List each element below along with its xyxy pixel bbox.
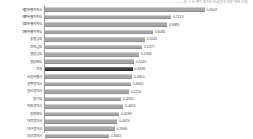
bar-value-label: 0.5308: [141, 52, 152, 56]
bar-row: 전북특별자치도0.6082: [0, 28, 252, 35]
bar-track: 0.4910: [44, 73, 253, 80]
bar-track: 0.5308: [44, 51, 253, 58]
bar-track: 0.6082: [44, 28, 253, 35]
bar-value-label: 0.4720: [130, 90, 141, 94]
category-label: 인천광역시: [0, 104, 44, 108]
bar[interactable]: [45, 126, 115, 131]
bar-row: 대구광역시0.3940: [0, 125, 252, 132]
bar-row: 충청북도0.4183: [0, 110, 252, 117]
bar-value-label: 0.9007: [207, 8, 218, 12]
bar-row: 제주특별자치도0.7113: [0, 13, 252, 20]
bar-row: 경기도0.4290: [0, 95, 252, 102]
bar-track: 0.4290: [44, 95, 253, 102]
category-label: 경기도: [0, 97, 44, 101]
chart-container: ○○○○년 시·도별 지표지수 비교(전국 평균 대비 수준) 세종특별자치시0…: [0, 0, 252, 139]
bar-row: 경상북도0.5022: [0, 58, 252, 65]
bar-value-label: 0.3601: [111, 134, 122, 138]
category-label: 부산광역시: [0, 134, 44, 138]
category-label: 경상남도: [0, 52, 44, 56]
bar-row: 경상남도0.5308: [0, 51, 252, 58]
bar-track: 0.6895: [44, 21, 253, 28]
bar[interactable]: [45, 104, 123, 109]
bar[interactable]: [45, 45, 142, 50]
bar-value-label: 0.3940: [117, 127, 128, 131]
category-label: 전국: [0, 67, 44, 71]
category-label: 강원특별자치도: [0, 22, 44, 26]
bar-track: 0.5477: [44, 43, 253, 50]
category-label: 전라남도: [0, 45, 44, 49]
bar-value-label: 0.4183: [121, 112, 132, 116]
bar-value-label: 0.5631: [147, 37, 158, 41]
bar[interactable]: [45, 15, 171, 20]
bar[interactable]: [45, 22, 167, 27]
bar-row: 대전광역시0.4076: [0, 118, 252, 125]
bar-value-label: 0.6895: [169, 23, 180, 27]
bar-row: 인천광역시0.4415: [0, 103, 252, 110]
bar-value-label: 0.4910: [134, 75, 145, 79]
category-label: 대전광역시: [0, 119, 44, 123]
bar-track: 0.3601: [44, 132, 253, 139]
bar-row: 전라남도0.5477: [0, 43, 252, 50]
bar-value-label: 0.7113: [173, 15, 183, 19]
bar-value-label: 0.5022: [136, 60, 147, 64]
bar[interactable]: [45, 97, 121, 102]
bar-track: 0.4183: [44, 110, 253, 117]
bar[interactable]: [45, 52, 139, 57]
category-label: 충청남도: [0, 37, 44, 41]
bar[interactable]: [45, 74, 132, 79]
bar-row: 서울특별시0.4910: [0, 73, 252, 80]
bar-value-label: 0.4290: [123, 97, 134, 101]
bar-value-label: 0.4938: [134, 67, 145, 71]
bar[interactable]: [45, 30, 153, 35]
bar-track: 0.4720: [44, 88, 253, 95]
bar-row: 전국0.4938: [0, 66, 252, 73]
bar-row: 울산광역시0.4720: [0, 88, 252, 95]
category-label: 경상북도: [0, 60, 44, 64]
category-label: 세종특별자치시: [0, 8, 44, 12]
bar-highlighted[interactable]: [45, 67, 133, 72]
bar-track: 0.4415: [44, 103, 253, 110]
category-label: 울산광역시: [0, 89, 44, 93]
category-label: 전북특별자치도: [0, 30, 44, 34]
bar[interactable]: [45, 82, 131, 87]
bar-track: 0.5631: [44, 36, 253, 43]
bar-track: 0.4845: [44, 80, 253, 87]
bar[interactable]: [45, 112, 119, 117]
bar-value-label: 0.6082: [155, 30, 166, 34]
bar-value-label: 0.5477: [144, 45, 155, 49]
plot-area: 세종특별자치시0.9007제주특별자치도0.7113강원특별자치도0.6895전…: [0, 5, 252, 137]
bar[interactable]: [45, 37, 145, 42]
category-label: 광주광역시: [0, 82, 44, 86]
bar-track: 0.7113: [44, 13, 253, 20]
bar-track: 0.9007: [44, 6, 253, 13]
category-label: 제주특별자치도: [0, 15, 44, 19]
bar[interactable]: [45, 119, 117, 124]
bar-value-label: 0.4845: [133, 82, 144, 86]
bar[interactable]: [45, 7, 205, 12]
bar-row: 부산광역시0.3601: [0, 132, 252, 139]
bar-row: 충청남도0.5631: [0, 36, 252, 43]
bar-value-label: 0.4415: [125, 104, 136, 108]
bar[interactable]: [45, 134, 109, 139]
bar-row: 강원특별자치도0.6895: [0, 21, 252, 28]
bar-rows: 세종특별자치시0.9007제주특별자치도0.7113강원특별자치도0.6895전…: [0, 6, 252, 139]
bar[interactable]: [45, 59, 134, 64]
bar-track: 0.3940: [44, 125, 253, 132]
bar-row: 광주광역시0.4845: [0, 80, 252, 87]
bar-track: 0.4938: [44, 66, 253, 73]
category-label: 충청북도: [0, 112, 44, 116]
bar-value-label: 0.4076: [119, 119, 130, 123]
bar-row: 세종특별자치시0.9007: [0, 6, 252, 13]
bar[interactable]: [45, 89, 129, 94]
category-label: 대구광역시: [0, 127, 44, 131]
category-label: 서울특별시: [0, 75, 44, 79]
bar-track: 0.5022: [44, 58, 253, 65]
bar-track: 0.4076: [44, 118, 253, 125]
